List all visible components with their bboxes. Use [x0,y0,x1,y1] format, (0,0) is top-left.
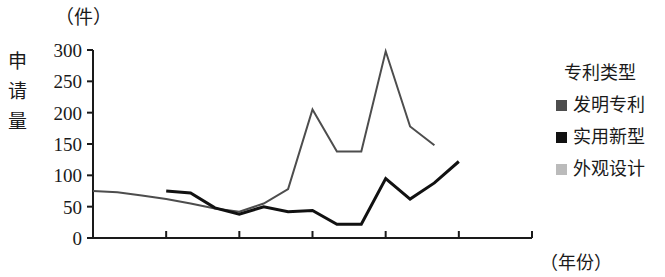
plot-area: 050100150200250300 199519982001200420072… [0,0,560,250]
series-line-发明专利 [93,51,434,211]
legend-label-2: 外观设计 [573,160,645,178]
legend-label-0: 发明专利 [573,96,645,114]
patent-application-line-chart: （件） 申 请 量 050100150200250300 19951998200… [0,0,665,277]
legend-item-2[interactable]: 外观设计 [556,160,664,178]
legend-items: 发明专利实用新型外观设计 [556,96,664,178]
y-tick-label: 200 [54,103,83,124]
y-tick-label: 250 [54,71,83,92]
y-tick-label: 100 [54,165,83,186]
x-axis-group: 1995199820012004200720102013 [74,231,551,250]
chart-svg: 050100150200250300 199519982001200420072… [0,0,560,250]
x-tick-label: 2004 [294,247,333,250]
x-tick-label: 1998 [147,247,185,250]
data-series-group [93,51,459,224]
y-tick-label: 150 [54,134,83,155]
x-axis-tick-labels: 1995199820012004200720102013 [74,247,551,250]
y-axis-group: 050100150200250300 [54,40,94,249]
x-tick-label: 1995 [74,247,112,250]
x-tick-label: 2010 [440,247,478,250]
y-tick-label: 50 [63,197,82,218]
x-axis-title: （年份） [540,248,612,274]
y-tick-label: 0 [73,228,83,249]
x-tick-label: 2007 [367,247,405,250]
legend-swatch-invention [556,100,567,111]
legend-item-0[interactable]: 发明专利 [556,96,664,114]
legend: 专利类型 发明专利实用新型外观设计 [556,58,664,192]
legend-title: 专利类型 [564,58,664,84]
y-tick-label: 300 [54,40,83,61]
legend-swatch-design [556,164,567,175]
x-axis-ticks [93,231,532,238]
y-axis-tick-labels: 050100150200250300 [54,40,83,249]
legend-label-1: 实用新型 [573,128,645,146]
legend-item-1[interactable]: 实用新型 [556,128,664,146]
x-tick-label: 2001 [220,247,258,250]
series-line-实用新型 [166,162,459,225]
legend-swatch-utility [556,132,567,143]
